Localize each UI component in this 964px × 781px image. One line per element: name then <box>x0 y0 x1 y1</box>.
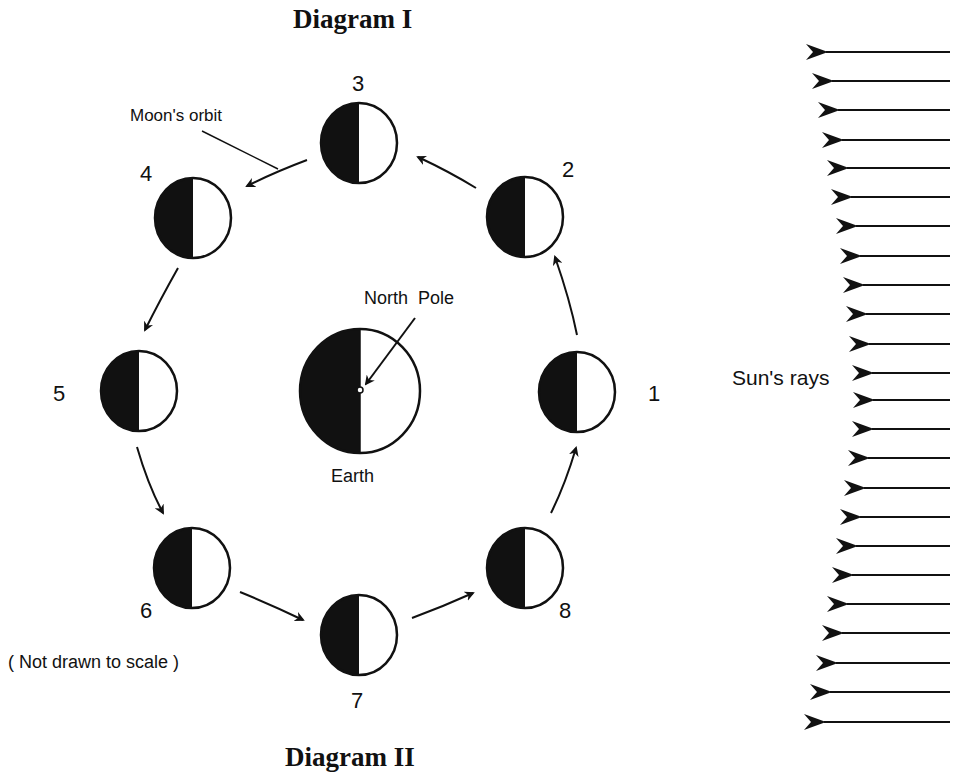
earth <box>300 329 420 453</box>
moon-2 <box>487 177 563 257</box>
moon-1 <box>539 352 615 432</box>
scale-note: ( Not drawn to scale ) <box>8 652 179 673</box>
sun-rays <box>824 52 950 722</box>
orbit-arrow-7-to-8 <box>412 593 473 618</box>
moons-orbit-label: Moon's orbit <box>130 106 222 126</box>
moon-8 <box>487 528 563 608</box>
moon-3-number: 3 <box>352 71 364 97</box>
moon-6 <box>154 528 230 608</box>
orbit-arrow-3-to-4 <box>247 160 307 186</box>
moon-4-number: 4 <box>140 161 152 187</box>
moon-5-number: 5 <box>53 381 65 407</box>
orbit-arrow-5-to-6 <box>137 447 163 513</box>
orbit-arrow-8-to-1 <box>551 448 576 513</box>
orbit-arrow-4-to-5 <box>145 268 178 330</box>
orbit-arrow-6-to-7 <box>240 592 303 620</box>
moon-7 <box>321 595 397 675</box>
north-pole-label: North Pole <box>364 288 454 309</box>
suns-rays-label: Sun's rays <box>732 366 829 390</box>
moon-5 <box>101 351 177 431</box>
moon-1-number: 1 <box>648 381 660 407</box>
moons-orbit-leader-line <box>202 131 278 169</box>
earth-label: Earth <box>331 466 374 487</box>
moon-2-number: 2 <box>562 157 574 183</box>
moon-7-number: 7 <box>351 688 363 714</box>
north-pole-arrow <box>366 318 415 384</box>
north-pole-marker <box>357 387 363 393</box>
orbit-arrow-2-to-3 <box>418 157 476 188</box>
moon-6-number: 6 <box>140 598 152 624</box>
moon-4 <box>155 178 231 258</box>
moon-8-number: 8 <box>559 598 571 624</box>
orbit-arrow-1-to-2 <box>555 257 577 335</box>
moon-3 <box>321 103 397 183</box>
